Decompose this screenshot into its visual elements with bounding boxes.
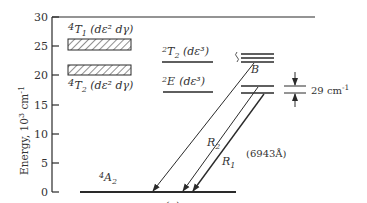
- splitting-value: 29 cm-1: [311, 83, 349, 96]
- level-2E: 2E(dε³): [161, 75, 213, 92]
- tick-15: 15: [34, 99, 48, 112]
- level-2T2: 2T2 (dε³): [161, 45, 213, 62]
- tick-30: 30: [34, 11, 48, 24]
- level-B: B: [236, 52, 275, 76]
- figure-label: (a): [164, 200, 179, 203]
- label-4T1: 4T1 (dε² dγ): [67, 21, 133, 38]
- tick-0: 0: [41, 186, 48, 199]
- wavelength-label: (6943Å): [246, 148, 287, 159]
- splitting-annotation: 29 cm-1: [284, 72, 349, 107]
- y-axis: 0 5 10 15 20 25 30 Energy, 103 cm-1: [17, 11, 315, 199]
- label-2E: 2E(dε³): [161, 75, 205, 88]
- axis-title: Energy, 103 cm-1: [17, 86, 30, 175]
- label-R2: R2: [206, 136, 220, 151]
- label-4A2: 4A2: [98, 171, 117, 186]
- level-4T1: 4T1 (dε² dγ): [67, 21, 133, 50]
- level-4A2: 4A2: [80, 171, 236, 192]
- tick-20: 20: [34, 69, 48, 82]
- level-4T2: 4T2 (dε² dγ): [67, 65, 133, 94]
- tick-10: 10: [34, 128, 48, 141]
- label-R1: R1: [221, 155, 235, 170]
- arrow-R1: [193, 94, 264, 191]
- tick-25: 25: [34, 40, 48, 53]
- energy-level-diagram: 0 5 10 15 20 25 30 Energy, 103 cm-1 4T1 …: [0, 0, 367, 203]
- label-B: B: [250, 63, 259, 76]
- tick-5: 5: [41, 157, 48, 170]
- label-4T2: 4T2 (dε² dγ): [67, 77, 133, 94]
- brace-icon: [236, 52, 239, 62]
- label-2T2: 2T2 (dε³): [161, 45, 209, 60]
